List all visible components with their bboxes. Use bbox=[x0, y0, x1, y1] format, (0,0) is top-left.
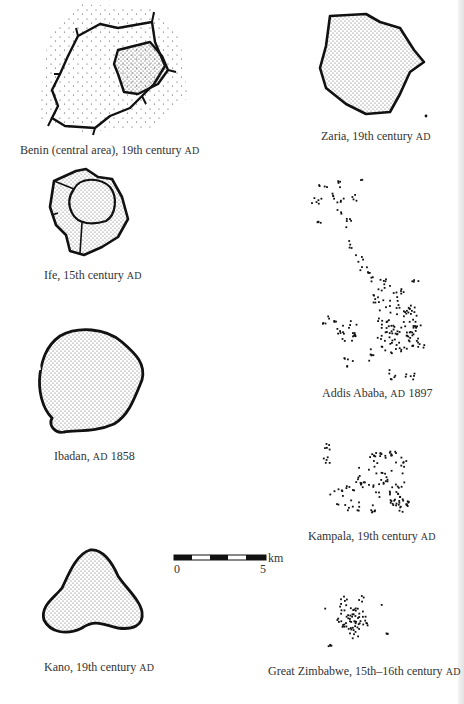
zaria-caption: Zaria, 19th century AD bbox=[321, 129, 431, 144]
page-edge-shadow bbox=[458, 0, 464, 704]
ibadan-caption: Ibadan, AD 1858 bbox=[54, 449, 135, 464]
ibadan-plan bbox=[38, 328, 144, 434]
scale-end-label: 5 bbox=[260, 562, 266, 577]
kampala-caption: Kampala, 19th century AD bbox=[308, 529, 436, 544]
zaria-plan bbox=[318, 14, 438, 118]
benin-plan bbox=[40, 8, 190, 133]
benin-caption: Benin (central area), 19th century AD bbox=[20, 143, 200, 158]
great-zimbabwe-caption: Great Zimbabwe, 15th–16th century AD bbox=[268, 664, 461, 679]
scale-zero-label: 0 bbox=[174, 562, 180, 577]
kano-caption: Kano, 19th century AD bbox=[44, 660, 154, 675]
great-zimbabwe-plan bbox=[316, 592, 416, 652]
ife-plan bbox=[46, 167, 134, 255]
scale-unit-label: km bbox=[268, 551, 283, 566]
ife-caption: Ife, 15th century AD bbox=[44, 268, 142, 283]
addis-caption: Addis Ababa, AD 1897 bbox=[322, 386, 432, 401]
kampala-plan bbox=[312, 440, 422, 518]
kano-plan bbox=[42, 548, 146, 638]
addis-ababa-plan bbox=[310, 180, 440, 380]
